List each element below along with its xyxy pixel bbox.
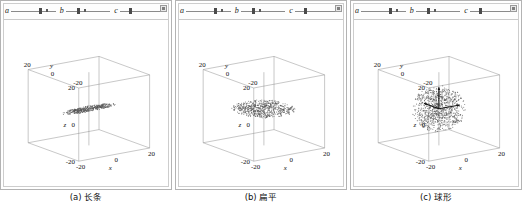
slider-label-c: c xyxy=(289,5,293,16)
slider-handle-c[interactable] xyxy=(304,8,307,14)
svg-text:0: 0 xyxy=(401,70,405,78)
manipulate-panel-a: abc -20020x-20020y200-20z xyxy=(0,0,172,190)
panel-c: abc -20020x-20020y200-20z (c) 球形 xyxy=(350,0,522,208)
slider-endmark-a xyxy=(46,9,48,12)
scatter3d-plot[interactable]: -20020x-20020y200-20z xyxy=(179,20,343,186)
slider-handle-b[interactable] xyxy=(77,8,80,14)
panel-caption-a: (a) 长条 xyxy=(0,190,172,208)
slider-label-a: a xyxy=(5,5,9,16)
svg-text:-20: -20 xyxy=(426,163,436,171)
svg-text:-20: -20 xyxy=(416,158,426,166)
slider-label-b: b xyxy=(410,5,414,16)
slider-row: abc xyxy=(4,4,168,19)
slider-handle-b[interactable] xyxy=(252,8,255,14)
plot-area-a[interactable]: -20020x-20020y200-20z xyxy=(4,20,168,186)
manipulate-panel-b: abc -20020x-20020y200-20z xyxy=(175,0,347,190)
settings-icon[interactable] xyxy=(510,5,517,12)
svg-text:x: x xyxy=(108,164,113,172)
svg-text:20: 20 xyxy=(498,150,505,158)
point-cloud xyxy=(63,103,116,115)
scatter3d-plot[interactable]: -20020x-20020y200-20z xyxy=(354,20,518,186)
slider-handle-a[interactable] xyxy=(39,8,42,14)
svg-text:0: 0 xyxy=(421,121,425,129)
slider-row: abc xyxy=(354,4,518,19)
point-cloud xyxy=(231,99,295,118)
svg-text:-20: -20 xyxy=(251,163,261,171)
svg-text:20: 20 xyxy=(24,61,31,69)
manipulate-panel-c: abc -20020x-20020y200-20z xyxy=(350,0,522,190)
slider-track-b[interactable] xyxy=(241,11,286,12)
panel-a: abc -20020x-20020y200-20z (a) 长条 xyxy=(0,0,172,208)
slider-endmark-b xyxy=(84,9,86,12)
panel-b: abc -20020x-20020y200-20z (b) 扁平 xyxy=(175,0,347,208)
axis-frame xyxy=(203,56,324,161)
plot-area-b[interactable]: -20020x-20020y200-20z xyxy=(179,20,343,186)
svg-text:0: 0 xyxy=(51,70,55,78)
settings-icon[interactable] xyxy=(335,5,342,12)
slider-endmark-b xyxy=(259,9,261,12)
svg-text:x: x xyxy=(283,164,288,172)
slider-handle-a[interactable] xyxy=(389,8,392,14)
svg-text:20: 20 xyxy=(68,84,75,92)
svg-text:0: 0 xyxy=(464,156,468,164)
slider-track-c[interactable] xyxy=(470,11,515,12)
figure-three-panel-scatter: abc -20020x-20020y200-20z (a) 长条 abc -20… xyxy=(0,0,524,216)
svg-text:0: 0 xyxy=(114,156,118,164)
slider-handle-b[interactable] xyxy=(427,8,430,14)
slider-label-b: b xyxy=(60,5,64,16)
slider-endmark-a xyxy=(221,9,223,12)
slider-endmark-a xyxy=(396,9,398,12)
svg-text:z: z xyxy=(413,121,417,129)
svg-text:x: x xyxy=(458,164,463,172)
svg-text:0: 0 xyxy=(71,121,75,129)
slider-track-a[interactable] xyxy=(11,11,56,12)
slider-handle-a[interactable] xyxy=(214,8,217,14)
svg-text:-20: -20 xyxy=(76,163,86,171)
svg-text:20: 20 xyxy=(199,61,206,69)
slider-label-c: c xyxy=(464,5,468,16)
slider-bar-c: abc xyxy=(354,4,518,20)
slider-track-b[interactable] xyxy=(416,11,461,12)
scatter3d-plot[interactable]: -20020x-20020y200-20z xyxy=(4,20,168,186)
slider-label-a: a xyxy=(180,5,184,16)
slider-endmark-b xyxy=(434,9,436,12)
slider-row: abc xyxy=(179,4,343,19)
svg-text:20: 20 xyxy=(418,84,425,92)
panel-caption-b: (b) 扁平 xyxy=(175,190,347,208)
svg-text:20: 20 xyxy=(374,61,381,69)
slider-track-a[interactable] xyxy=(361,11,406,12)
slider-handle-c[interactable] xyxy=(129,8,132,14)
slider-handle-c[interactable] xyxy=(479,8,482,14)
slider-label-a: a xyxy=(355,5,359,16)
svg-text:-20: -20 xyxy=(66,158,76,166)
svg-text:20: 20 xyxy=(148,150,155,158)
slider-track-b[interactable] xyxy=(66,11,111,12)
svg-text:z: z xyxy=(63,121,67,129)
svg-text:0: 0 xyxy=(289,156,293,164)
panel-caption-c: (c) 球形 xyxy=(350,190,522,208)
plot-area-c[interactable]: -20020x-20020y200-20z xyxy=(354,20,518,186)
svg-text:0: 0 xyxy=(246,121,250,129)
svg-text:0: 0 xyxy=(226,70,230,78)
slider-label-b: b xyxy=(235,5,239,16)
svg-text:z: z xyxy=(238,121,242,129)
svg-text:20: 20 xyxy=(323,150,330,158)
slider-label-c: c xyxy=(114,5,118,16)
slider-bar-a: abc xyxy=(4,4,168,20)
slider-track-a[interactable] xyxy=(186,11,231,12)
slider-bar-b: abc xyxy=(179,4,343,20)
svg-text:-20: -20 xyxy=(241,158,251,166)
slider-track-c[interactable] xyxy=(295,11,340,12)
settings-icon[interactable] xyxy=(160,5,167,12)
slider-track-c[interactable] xyxy=(120,11,165,12)
svg-text:20: 20 xyxy=(243,84,250,92)
